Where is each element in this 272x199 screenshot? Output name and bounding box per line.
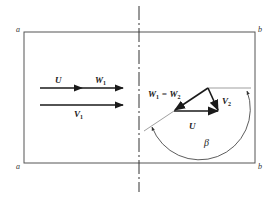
blade-direction-line [144,111,174,131]
corner-label-bottom-left: a [16,163,20,171]
eq-right-sub: 2 [178,94,181,100]
corner-label-top-left: a [16,26,20,34]
v2-label: V2 [222,97,231,107]
eq-right: W [170,89,178,99]
v2-arrow [208,88,218,110]
u-outlet-label: U [189,122,196,131]
corner-label-bottom-right: b [258,163,262,171]
velocity-diagram: a b a b U W1 V1 W1 = W2 V2 U β [0,0,272,199]
v1-label-sub: 1 [80,114,83,120]
corner-label-top-right: b [258,26,262,34]
diagram-canvas [0,0,272,199]
eq-left: W [148,89,156,99]
w1-label-text: W [95,75,103,85]
u-inlet-label: U [55,76,62,85]
w1-label: W1 [95,76,106,86]
v1-label: V1 [74,110,83,120]
w1-equals-w2-label: W1 = W2 [148,90,181,100]
beta-angle-arc [152,91,250,160]
v2-label-sub: 2 [228,101,231,107]
eq-sign: = [159,89,170,99]
w1-label-sub: 1 [103,80,106,86]
beta-label: β [204,138,209,148]
